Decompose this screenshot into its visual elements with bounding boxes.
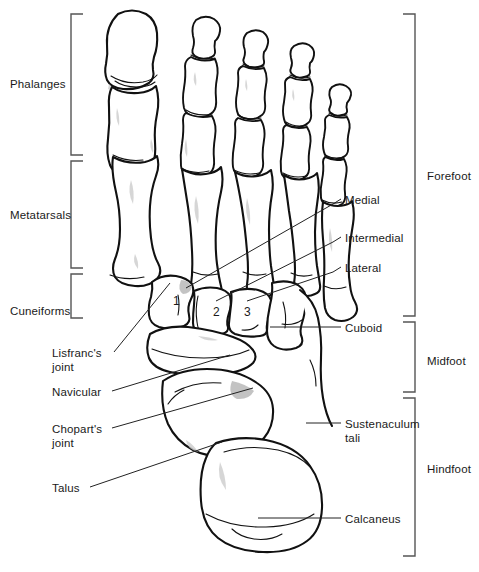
right-region-brackets (403, 14, 415, 556)
cuneiform-number-1: 1 (173, 295, 180, 309)
callout-label-intermedial: Intermedial (345, 232, 404, 246)
cuneiform-number-2: 2 (213, 306, 220, 320)
callout-label-talus: Talus (52, 482, 80, 496)
callout-label-lisfrancs-joint: Lisfranc's joint (52, 347, 102, 374)
bracket-label-metatarsals: Metatarsals (10, 209, 71, 223)
callout-label-choparts-joint: Chopart's joint (52, 423, 102, 450)
cuneiform-number-3: 3 (244, 306, 251, 320)
callout-label-medial: Medial (345, 194, 380, 208)
bracket-label-phalanges: Phalanges (10, 78, 66, 92)
bracket-label-hindfoot: Hindfoot (427, 463, 471, 477)
foot-anatomy-figure: .b{fill:#ffffff;stroke:#111111;stroke-wi… (0, 0, 479, 572)
callout-label-calcaneus: Calcaneus (345, 513, 401, 527)
bracket-label-cuneiforms: Cuneiforms (10, 305, 70, 319)
left-region-brackets (71, 14, 83, 318)
callout-label-lateral: Lateral (345, 262, 381, 276)
bracket-label-midfoot: Midfoot (427, 355, 466, 369)
callout-label-sustenaculum-tali: Sustenaculum tali (345, 418, 420, 445)
callout-label-navicular: Navicular (52, 386, 101, 400)
bone-group-tarsals (147, 276, 306, 376)
callout-label-cuboid: Cuboid (345, 322, 382, 336)
bracket-label-forefoot: Forefoot (427, 170, 471, 184)
